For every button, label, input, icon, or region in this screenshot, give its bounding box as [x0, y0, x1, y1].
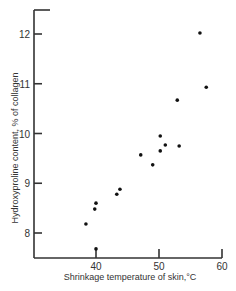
data-point-3 [94, 247, 98, 251]
data-point-13 [204, 85, 208, 89]
data-points [84, 31, 208, 251]
data-point-6 [139, 153, 143, 157]
data-point-0 [84, 222, 88, 226]
y-tick-label-10: 10 [19, 129, 31, 140]
y-tick-label-9: 9 [24, 178, 30, 189]
data-point-12 [175, 98, 179, 102]
y-axis-title: Hydroxyproline content, % of collagen [10, 72, 20, 223]
data-point-9 [158, 149, 162, 153]
data-point-1 [93, 207, 97, 211]
data-point-7 [151, 163, 155, 167]
data-point-4 [115, 192, 119, 196]
data-point-10 [164, 143, 168, 147]
scatter-chart: 89101112405060 Shrinkage temperature of … [0, 0, 236, 291]
x-tick-label-50: 50 [153, 261, 165, 272]
y-tick-label-8: 8 [24, 228, 30, 239]
data-point-5 [118, 187, 122, 191]
x-tick-label-60: 60 [216, 261, 228, 272]
data-point-11 [177, 144, 181, 148]
x-axis-title: Shrinkage temperature of skin,°C [64, 272, 197, 282]
data-point-2 [94, 201, 98, 205]
y-tick-label-11: 11 [20, 79, 31, 90]
data-point-8 [158, 134, 162, 138]
data-point-14 [198, 31, 202, 35]
x-tick-label-40: 40 [90, 261, 102, 272]
y-tick-label-12: 12 [19, 29, 31, 40]
axes: 89101112405060 [19, 10, 228, 272]
